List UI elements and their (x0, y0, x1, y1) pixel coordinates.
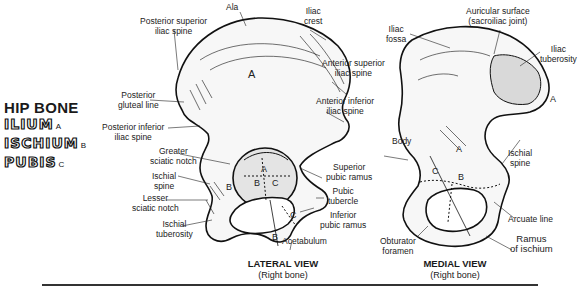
label-iliac-tuberosity: Iliac tuberosity (540, 44, 577, 64)
bottom-divider (42, 284, 538, 286)
legend-title: HIP BONE (4, 100, 87, 116)
legend-item-ilium: ILIUMA (4, 116, 87, 135)
label-ramus-of-ischium: Ramus of ischium (510, 234, 553, 254)
region-mark-ilium: A (248, 68, 255, 80)
legend-tag-c: C (59, 160, 66, 169)
label-anterior-inferior-iliac-spine: Anterior inferior iliac spine (316, 96, 374, 116)
legend-tag-a: A (56, 122, 62, 131)
region-mark-medial-pubis: C (432, 166, 439, 176)
label-acetabulum: Acetabulum (282, 236, 327, 246)
region-mark-pubis-acetabulum: C (272, 178, 279, 188)
label-ischial-spine-medial: Ischial spine (508, 148, 532, 168)
label-body: Body (392, 136, 411, 146)
legend-item-ischium: ISCHIUMB (4, 135, 87, 154)
label-anterior-superior-iliac-spine: Anterior superior iliac spine (322, 58, 385, 78)
label-posterior-inferior-iliac-spine: Posterior inferior iliac spine (102, 122, 164, 142)
label-arcuate-line: Arcuate line (508, 214, 553, 224)
hip-bone-illustrations (0, 0, 584, 296)
label-iliac-fossa: Iliac fossa (386, 24, 406, 44)
region-mark-medial-ischium: B (458, 172, 464, 182)
label-inferior-pubic-ramus: Inferior pubic ramus (320, 210, 366, 230)
region-mark-ischium-acetabulum: B (254, 178, 260, 188)
legend-tag-b: B (81, 141, 87, 150)
label-lesser-sciatic-notch: Lesser sciatic notch (132, 193, 179, 213)
region-mark-pubis: C (290, 210, 297, 220)
label-posterior-superior-iliac-spine: Posterior superior iliac spine (140, 16, 207, 36)
region-mark-medial-ilium: A (456, 144, 462, 154)
label-ischial-tuberosity: Ischial tuberosity (156, 219, 193, 239)
label-posterior-gluteal-line: Posterior gluteal line (118, 90, 159, 110)
label-iliac-crest: Iliac crest (304, 6, 322, 26)
region-mark-medial-ilium-edge: A (550, 94, 556, 104)
region-mark-ischium-ramus: B (272, 232, 278, 242)
medial-view-subtitle: (Right bone) (410, 270, 500, 280)
lateral-view-subtitle: (Right bone) (238, 270, 328, 280)
label-obturator-foramen: Obturator foramen (380, 236, 416, 256)
legend-item-pubis: PUBISC (4, 154, 87, 173)
label-ala: Ala (226, 2, 238, 12)
label-auricular-surface: Auricular surface (sacroiliac joint) (466, 6, 530, 26)
region-mark-ilium-acetabulum: A (261, 164, 267, 174)
label-pubic-tubercle: Pubic tubercle (328, 186, 358, 206)
label-greater-sciatic-notch: Greater sciatic notch (150, 146, 197, 166)
lateral-view-title: LATERAL VIEW (238, 258, 328, 269)
region-mark-ischium: B (226, 182, 232, 192)
label-ischial-spine-lateral: Ischial spine (152, 171, 176, 191)
medial-view-title: MEDIAL VIEW (410, 258, 500, 269)
legend: HIP BONE ILIUMA ISCHIUMB PUBISC (4, 100, 87, 173)
label-superior-pubic-ramus: Superior pubic ramus (326, 162, 372, 182)
